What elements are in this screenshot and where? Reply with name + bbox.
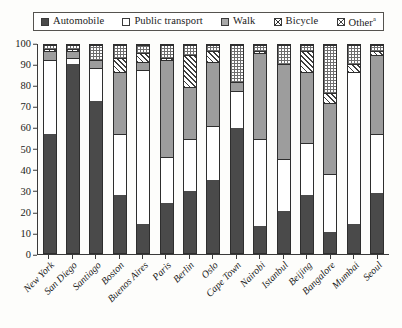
legend-item-automobile: Automobile — [41, 16, 104, 27]
bar-segment-walk — [231, 82, 243, 90]
bar-segment-walk — [184, 87, 196, 139]
stacked-bar[interactable] — [160, 44, 174, 254]
x-axis-label: Paris — [151, 260, 173, 282]
y-axis-tick-label: 10 — [21, 229, 32, 240]
bar-segment-pt — [278, 159, 290, 211]
y-axis-tick: 60 — [21, 123, 38, 134]
y-axis-tick-label: 60 — [21, 123, 32, 134]
y-axis-tick-label: 30 — [21, 186, 32, 197]
x-axis-labels: New YorkSan DiegoSantiagoBostonBuenos Ai… — [37, 258, 389, 328]
stacked-bar-chart: Automobile Public transport Walk Bicycle… — [0, 0, 402, 328]
y-axis-tick-label: 80 — [21, 81, 32, 92]
stacked-bar[interactable] — [253, 44, 267, 254]
bar-segment-walk — [137, 62, 149, 70]
stacked-bar[interactable] — [277, 44, 291, 254]
x-axis-label: Berlin — [172, 260, 197, 285]
bar-segment-auto — [184, 191, 196, 253]
bar-segment-walk — [301, 72, 313, 143]
y-axis-tick: 70 — [21, 102, 38, 113]
x-axis-label-slot: Buenos Aires — [136, 258, 150, 328]
y-axis-tick: 0 — [26, 250, 37, 261]
y-axis-tick-label: 20 — [21, 208, 32, 219]
y-axis-tick: 30 — [21, 186, 38, 197]
x-axis-label-slot: Berlin — [182, 258, 196, 328]
bar-segment-pt — [231, 91, 243, 128]
bar-segment-pt — [324, 174, 336, 232]
bar-segment-auto — [67, 64, 79, 253]
legend-label-automobile: Automobile — [53, 16, 104, 27]
bar-segment-other — [114, 45, 126, 57]
legend-item-walk: Walk — [221, 16, 255, 27]
x-axis-label-slot: Mumbai — [347, 258, 361, 328]
bar-segment-bike — [137, 53, 149, 61]
y-axis-tick: 40 — [21, 165, 38, 176]
bar-segment-walk — [278, 64, 290, 160]
bar-segment-other — [278, 45, 290, 64]
stacked-bar[interactable] — [323, 44, 337, 254]
bar-segment-other — [90, 45, 102, 60]
bar-segment-auto — [44, 134, 56, 253]
bar-segment-pt — [184, 139, 196, 191]
y-axis-tick: 10 — [21, 229, 38, 240]
y-axis: 0102030405060708090100 — [0, 44, 37, 255]
legend-item-other: Othera — [337, 16, 376, 28]
bar-segment-auto — [371, 193, 383, 253]
stacked-bar[interactable] — [370, 44, 384, 254]
bar-group — [38, 44, 389, 254]
bar-segment-other — [161, 45, 173, 57]
stacked-bar[interactable] — [66, 44, 80, 254]
bar-segment-pt — [301, 143, 313, 195]
y-axis-tick-label: 50 — [21, 144, 32, 155]
bar-segment-walk — [44, 51, 56, 59]
bar-segment-auto — [278, 211, 290, 253]
bar-segment-pt — [348, 72, 360, 224]
bar-segment-pt — [114, 134, 126, 194]
x-axis-label-slot: Santiago — [89, 258, 103, 328]
legend-label-bicycle: Bicycle — [286, 16, 319, 27]
bar-segment-walk — [114, 72, 126, 134]
bar-segment-other — [324, 45, 336, 93]
y-axis-tick: 20 — [21, 208, 38, 219]
legend-footnote-marker: a — [373, 15, 376, 22]
bar-segment-bike — [184, 55, 196, 86]
y-axis-tick: 100 — [15, 39, 37, 50]
bar-segment-pt — [90, 68, 102, 101]
bar-segment-auto — [324, 232, 336, 253]
x-axis-label-slot: Bangalore — [323, 258, 337, 328]
bar-segment-auto — [254, 226, 266, 253]
stacked-bar[interactable] — [230, 44, 244, 254]
legend-label-other: Othera — [349, 16, 376, 28]
bar-segment-walk — [371, 55, 383, 134]
bar-segment-walk — [161, 60, 173, 158]
y-axis-tick-label: 40 — [21, 165, 32, 176]
bar-segment-auto — [301, 195, 313, 253]
x-axis-label: Seoul — [361, 260, 384, 283]
legend-item-bicycle: Bicycle — [274, 16, 319, 27]
bar-segment-walk — [90, 60, 102, 68]
y-axis-tick-label: 0 — [26, 250, 31, 261]
bar-segment-auto — [114, 195, 126, 253]
dotted-square-swatch-icon — [337, 18, 345, 26]
stacked-bar[interactable] — [113, 44, 127, 254]
bar-segment-bike — [207, 51, 219, 61]
x-axis-label-slot: San Diego — [65, 258, 79, 328]
bar-segment-bike — [301, 51, 313, 72]
bar-segment-pt — [137, 70, 149, 224]
bar-segment-walk — [324, 103, 336, 174]
stacked-bar[interactable] — [89, 44, 103, 254]
x-axis-label-slot: Cape Town — [229, 258, 243, 328]
stacked-bar[interactable] — [136, 44, 150, 254]
stacked-bar[interactable] — [300, 44, 314, 254]
y-axis-tick: 50 — [21, 144, 38, 155]
bar-segment-pt — [44, 60, 56, 135]
bar-segment-other — [137, 45, 149, 53]
x-axis-label-slot: Paris — [159, 258, 173, 328]
stacked-bar[interactable] — [183, 44, 197, 254]
stacked-bar[interactable] — [43, 44, 57, 254]
bar-segment-other — [348, 45, 360, 64]
stacked-bar[interactable] — [206, 44, 220, 254]
bar-segment-walk — [254, 53, 266, 138]
y-axis-tick: 90 — [21, 60, 38, 71]
bar-segment-auto — [137, 224, 149, 253]
stacked-bar[interactable] — [347, 44, 361, 254]
